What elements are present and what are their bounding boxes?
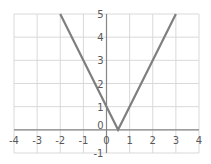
x-tick-label: -3 [32,135,42,146]
chart-plot: -4-3-2-101234 -1012345 [0,0,211,164]
x-tick-label: 1 [126,135,132,146]
y-tick-label: 2 [97,79,103,90]
x-tick-label: -1 [78,135,88,146]
x-tick-label: -2 [55,135,65,146]
x-tick-label: 3 [173,135,179,146]
x-tick-label: 0 [103,135,109,146]
y-tick-label: 4 [97,32,103,43]
y-tick-label: 5 [97,9,103,20]
x-tick-label: 4 [196,135,202,146]
y-tick-label: 1 [97,102,103,113]
y-tick-label: 3 [97,55,103,66]
x-tick-label: -4 [9,135,19,146]
series-line [60,14,176,130]
y-tick-label: -1 [94,148,104,159]
data-series [60,14,176,130]
y-tick-label: 0 [97,120,103,131]
x-axis-tick-labels: -4-3-2-101234 [9,135,202,146]
x-tick-label: 2 [150,135,156,146]
